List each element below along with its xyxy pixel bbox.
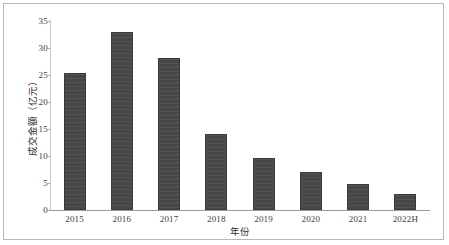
chart-frame: 05101520253035 2015201620172018201920202… xyxy=(3,3,444,240)
x-axis-line xyxy=(50,210,430,211)
x-tick-label: 2016 xyxy=(98,214,145,224)
y-tick-mark xyxy=(48,21,50,22)
y-tick-mark xyxy=(48,156,50,157)
bar-slot xyxy=(240,21,287,210)
x-axis-title: 年份 xyxy=(51,227,429,238)
bar[interactable] xyxy=(347,184,369,210)
bar-slot xyxy=(335,21,382,210)
bar[interactable] xyxy=(253,158,275,210)
x-tick-label: 2017 xyxy=(146,214,193,224)
bar-slot xyxy=(146,21,193,210)
x-tick-label: 2015 xyxy=(51,214,98,224)
bar[interactable] xyxy=(300,172,322,210)
y-tick-mark xyxy=(48,48,50,49)
x-tick-label: 2021 xyxy=(335,214,382,224)
y-tick-mark xyxy=(48,210,50,211)
bar[interactable] xyxy=(111,32,133,210)
y-axis-title: 成交金额（亿元） xyxy=(26,21,40,210)
x-tick-label: 2018 xyxy=(193,214,240,224)
x-tick-label: 2019 xyxy=(240,214,287,224)
bar[interactable] xyxy=(394,194,416,210)
y-tick-mark xyxy=(48,75,50,76)
bar-slot xyxy=(98,21,145,210)
plot-area xyxy=(51,21,429,210)
y-tick-mark xyxy=(48,102,50,103)
bar[interactable] xyxy=(158,58,180,210)
bar[interactable] xyxy=(64,73,86,210)
x-tick-label: 2020 xyxy=(287,214,334,224)
bar-slot xyxy=(382,21,429,210)
bar-slot xyxy=(287,21,334,210)
bar[interactable] xyxy=(205,134,227,210)
bar-slot xyxy=(193,21,240,210)
y-tick-mark xyxy=(48,129,50,130)
x-tick-label: 2022H xyxy=(382,214,429,224)
y-tick-mark xyxy=(48,183,50,184)
bar-slot xyxy=(51,21,98,210)
